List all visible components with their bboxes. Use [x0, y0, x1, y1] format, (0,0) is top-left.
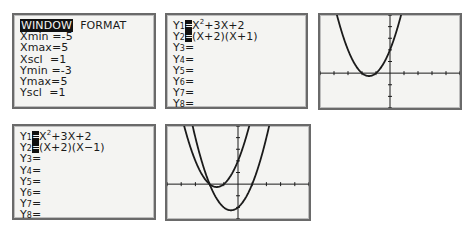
y-editor-screen-1: Y1=X2+3X+2Y2=(X+2)(X+1)Y3=Y4=Y5=Y6=Y7=Y8…	[165, 13, 308, 109]
y-expression[interactable]: (X+2)(X−1)	[39, 141, 105, 154]
y-editor-list: Y1=X2+3X+2Y2=(X+2)(X−1)Y3=Y4=Y5=Y6=Y7=Y8…	[20, 131, 105, 221]
y-label: Y	[173, 97, 180, 110]
y-function-row[interactable]: Y8=	[20, 209, 105, 220]
equals-toggle[interactable]: =	[185, 97, 194, 110]
graph-plot	[167, 126, 309, 219]
y-editor-screen-2: Y1=X2+3X+2Y2=(X+2)(X−1)Y3=Y4=Y5=Y6=Y7=Y8…	[12, 124, 156, 220]
setting-yscl[interactable]: Yscl =1	[20, 87, 126, 98]
y-editor-list: Y1=X2+3X+2Y2=(X+2)(X+1)Y3=Y4=Y5=Y6=Y7=Y8…	[173, 20, 258, 110]
graph-screen-2	[165, 124, 311, 221]
window-settings-screen: WINDOW FORMAT Xmin =-5 Xmax=5 Xscl =1 Ym…	[12, 13, 156, 109]
y-function-row[interactable]: Y8=	[173, 98, 258, 109]
equals-toggle[interactable]: =	[32, 208, 41, 221]
tab-format[interactable]: FORMAT	[80, 19, 126, 32]
graph-screen-1	[318, 13, 462, 110]
y-label: Y	[20, 208, 27, 221]
graph-plot	[320, 15, 460, 108]
y-expression[interactable]: (X+2)(X+1)	[192, 30, 258, 43]
